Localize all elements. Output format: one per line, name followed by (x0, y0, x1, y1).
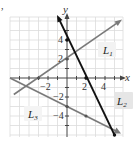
coordinate-plane: y x −2 2 4 4 2 −2 −4 L1 L2 L3 (0, 0, 133, 145)
x-axis-label: x (124, 71, 130, 83)
x-tick-4: 4 (101, 81, 106, 92)
L1-arrow-icon (115, 20, 123, 27)
label-L3: L3 (24, 106, 42, 122)
y-tick-neg4: −4 (53, 110, 64, 121)
L2-label-main: L (116, 95, 123, 107)
L1-label-main: L (102, 44, 109, 56)
line-L2 (57, 15, 116, 137)
label-L1: L1 (98, 42, 116, 58)
y-axis-label: y (62, 3, 68, 15)
L3-label-sub: 3 (33, 114, 38, 122)
x-tick-2: 2 (82, 81, 87, 92)
y-tick-4: 4 (58, 34, 63, 45)
L1-label-sub: 1 (109, 50, 113, 58)
x-tick-neg2: −2 (40, 81, 51, 92)
label-L2: L2 (114, 92, 133, 109)
L2-label-sub: 2 (123, 101, 127, 109)
L3-label-main: L (27, 108, 34, 120)
